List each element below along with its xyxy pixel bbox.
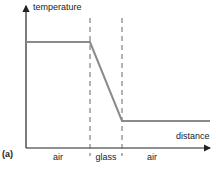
y-axis-label: temperature xyxy=(33,2,82,12)
temperature-distance-diagram: temperature distance (a) air glass air xyxy=(0,0,216,174)
temperature-profile xyxy=(26,42,210,121)
region-label-air-2: air xyxy=(147,152,157,162)
region-label-glass: glass xyxy=(95,152,117,162)
region-label-air-1: air xyxy=(53,152,63,162)
x-axis-label: distance xyxy=(176,131,210,141)
panel-label: (a) xyxy=(2,149,13,159)
